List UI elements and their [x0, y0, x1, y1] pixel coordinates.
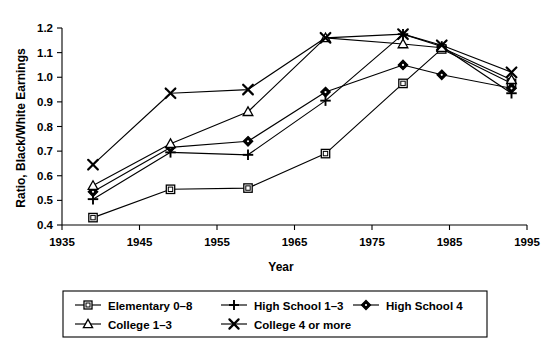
legend-item-label: College 1–3 [108, 319, 172, 331]
marker-square-open [84, 301, 92, 309]
series-high-school-1-3 [88, 29, 517, 204]
legend-item-high-school-4[interactable]: High School 4 [353, 300, 463, 312]
legend-item-label: Elementary 0–8 [108, 300, 193, 312]
marker-plus [229, 300, 239, 310]
legend-item-high-school-1-3[interactable]: High School 1–3 [221, 300, 343, 312]
y-axis-ticks: 0.40.50.60.70.80.91.01.11.2 [37, 22, 62, 231]
marker-cross [88, 160, 98, 170]
y-tick-label: 1.2 [37, 22, 53, 34]
marker-diamond-solid [243, 137, 252, 146]
chart-legend: Elementary 0–8High School 1–3High School… [63, 291, 487, 337]
x-axis-title: Year [268, 260, 294, 274]
x-tick-label: 1995 [514, 236, 540, 248]
marker-square-open [399, 79, 407, 87]
legend-item-college-4-or-more[interactable]: College 4 or more [221, 319, 351, 331]
x-tick-label: 1985 [437, 236, 463, 248]
marker-diamond-solid [398, 60, 407, 69]
y-tick-label: 0.4 [37, 219, 54, 231]
x-tick-label: 1935 [49, 236, 75, 248]
chart-figure: Ratio, Black/White Earnings 0.40.50.60.7… [0, 0, 553, 344]
y-tick-label: 1.0 [37, 71, 53, 83]
x-tick-label: 1965 [282, 236, 308, 248]
series-college-1-3 [88, 33, 516, 189]
marker-square-open [321, 149, 329, 157]
marker-diamond-solid [321, 87, 330, 96]
y-tick-label: 0.5 [37, 194, 54, 206]
series-high-school-4 [88, 60, 516, 196]
marker-plus [243, 150, 254, 161]
series-polyline [93, 34, 512, 199]
marker-square-open [89, 213, 97, 221]
x-tick-label: 1945 [127, 236, 153, 248]
series-layer [88, 29, 517, 222]
y-axis-title: Ratio, Black/White Earnings [14, 48, 28, 208]
x-tick-label: 1955 [204, 236, 230, 248]
legend-item-elementary-0-8[interactable]: Elementary 0–8 [75, 300, 193, 312]
y-tick-label: 0.9 [37, 96, 53, 108]
legend-item-label: College 4 or more [254, 319, 351, 331]
x-axis-ticks: 1935194519551965197519851995 [49, 225, 540, 248]
marker-triangle-open [166, 139, 176, 148]
series-polyline [93, 34, 512, 165]
series-elementary-0-8 [89, 45, 516, 222]
marker-diamond-solid [362, 301, 371, 310]
legend-item-college-1-3[interactable]: College 1–3 [75, 319, 172, 331]
marker-diamond-solid [437, 70, 446, 79]
y-tick-label: 0.7 [37, 145, 53, 157]
x-tick-label: 1975 [359, 236, 385, 248]
legend-item-label: High School 4 [386, 300, 463, 312]
marker-square-open [166, 185, 174, 193]
legend-item-label: High School 1–3 [254, 300, 343, 312]
series-polyline [93, 65, 512, 192]
marker-square-open [244, 184, 252, 192]
y-tick-label: 0.6 [37, 170, 53, 182]
line-chart-canvas: Ratio, Black/White Earnings 0.40.50.60.7… [0, 0, 553, 344]
series-polyline [93, 49, 512, 218]
y-tick-label: 0.8 [37, 121, 54, 133]
y-tick-label: 1.1 [37, 47, 54, 59]
marker-triangle-open [88, 181, 98, 190]
series-college-4-or-more [88, 29, 516, 169]
